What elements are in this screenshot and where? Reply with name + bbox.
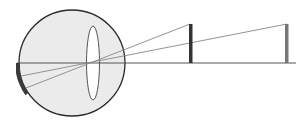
far-object bbox=[285, 24, 289, 63]
eye-diagram bbox=[0, 0, 305, 120]
near-object bbox=[189, 24, 193, 63]
